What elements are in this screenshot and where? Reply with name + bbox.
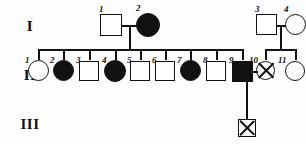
id-label-II-10: 10 [249,56,258,65]
drop-line-II-1 [38,49,40,60]
drop-line-II-11 [295,49,297,60]
id-label-II-1: 1 [25,56,30,65]
generation-label-I: I [27,19,33,34]
drop-line-II-3 [89,49,91,60]
descent-line-II9-II10 [246,71,248,120]
id-label-II-11: 11 [278,56,287,65]
deceased-cross-icon [239,120,255,136]
id-label-I-4: 4 [284,5,289,14]
individual-I-2[interactable] [136,13,160,37]
id-label-II-2: 2 [50,56,55,65]
descent-line-I3-I4 [280,25,282,49]
individual-II-7[interactable] [180,60,201,81]
id-label-II-9: 9 [229,56,234,65]
individual-I-4[interactable] [285,14,306,35]
individual-II-1[interactable] [28,60,49,81]
individual-II-2[interactable] [53,60,74,81]
mating-drop-connector [246,71,254,73]
sibship-line-gen2-right [265,49,296,51]
id-label-II-5: 5 [127,56,132,65]
id-label-I-1: 1 [99,5,104,14]
individual-II-5[interactable] [130,61,150,81]
id-label-II-8: 8 [203,56,208,65]
individual-I-3[interactable] [256,14,277,35]
drop-line-II-5 [140,49,142,60]
individual-III-1[interactable] [238,119,256,137]
pedigree-chart: I II III 1 2 3 4 1 2 3 4 5 6 7 8 9 [0,0,306,144]
id-label-I-2: 2 [136,4,141,13]
individual-I-1[interactable] [100,14,122,36]
individual-II-10[interactable] [256,61,275,80]
id-label-II-7: 7 [177,56,182,65]
id-label-II-6: 6 [152,56,157,65]
individual-II-11[interactable] [285,61,305,81]
generation-label-III: III [20,117,39,132]
drop-line-II-4 [115,49,117,60]
drop-line-II-6 [165,49,167,60]
deceased-cross-icon [257,62,274,79]
drop-line-II-9 [242,49,244,60]
id-label-I-3: 3 [255,5,260,14]
individual-II-4[interactable] [104,60,126,82]
descent-line-I1-I2 [129,25,131,49]
drop-line-II-7 [190,49,192,60]
individual-II-6[interactable] [155,61,175,81]
individual-II-3[interactable] [79,61,99,81]
drop-line-II-10 [265,49,267,60]
drop-line-II-2 [63,49,65,60]
id-label-II-4: 4 [102,56,107,65]
individual-II-8[interactable] [206,61,226,81]
drop-line-II-8 [216,49,218,60]
id-label-II-3: 3 [76,56,81,65]
